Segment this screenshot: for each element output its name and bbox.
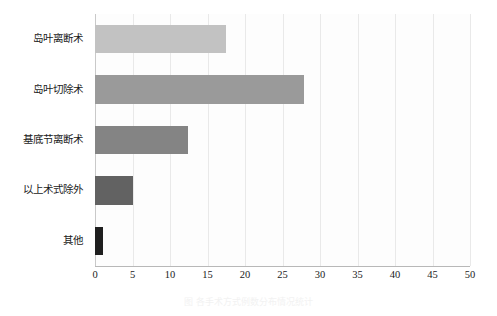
x-tick-label-10: 10 <box>165 268 176 282</box>
x-tick-label-15: 15 <box>202 268 213 282</box>
figure-caption: 图 各手术方式例数分布情况统计 <box>0 296 497 308</box>
x-tick-label-40: 40 <box>390 268 401 282</box>
bars-layer <box>95 14 470 266</box>
bar-row <box>95 75 470 103</box>
bar-row <box>95 126 470 154</box>
x-tick-label-5: 5 <box>130 268 135 282</box>
x-tick-label-20: 20 <box>240 268 251 282</box>
bar-2[interactable] <box>95 126 188 154</box>
bar-4[interactable] <box>95 227 103 255</box>
y-tick-label-3: 以上术式除外 <box>23 183 83 197</box>
x-tick-label-45: 45 <box>427 268 438 282</box>
y-axis-category-labels: 岛叶离断术岛叶切除术基底节离断术以上术式除外其他 <box>0 14 90 266</box>
plot-wrapper: 岛叶离断术岛叶切除术基底节离断术以上术式除外其他 051015202530354… <box>0 0 497 292</box>
x-tick-label-30: 30 <box>315 268 326 282</box>
bar-row <box>95 25 470 53</box>
bar-1[interactable] <box>95 75 304 103</box>
plot-area <box>95 14 470 266</box>
y-tick-label-1: 岛叶切除术 <box>33 83 83 97</box>
x-tick-label-50: 50 <box>465 268 476 282</box>
bar-row <box>95 176 470 204</box>
x-tick-label-35: 35 <box>352 268 363 282</box>
bar-0[interactable] <box>95 25 226 53</box>
y-tick-label-2: 基底节离断术 <box>23 133 83 147</box>
bar-row <box>95 227 470 255</box>
x-tick-label-25: 25 <box>277 268 288 282</box>
x-tick-label-0: 0 <box>92 268 97 282</box>
bar-chart-figure: 岛叶离断术岛叶切除术基底节离断术以上术式除外其他 051015202530354… <box>0 0 497 316</box>
y-tick-label-4: 其他 <box>63 234 83 248</box>
x-axis-line <box>95 266 470 267</box>
bar-3[interactable] <box>95 176 133 204</box>
y-tick-label-0: 岛叶离断术 <box>33 32 83 46</box>
x-axis-tick-labels: 05101520253035404550 <box>0 268 497 290</box>
gridline-50 <box>470 14 471 266</box>
